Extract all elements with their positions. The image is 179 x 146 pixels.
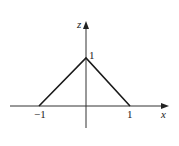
x-axis-label: x	[160, 108, 166, 120]
z-axis-arrow-icon	[83, 21, 89, 29]
tent-curve	[39, 58, 130, 106]
x-tick-neg-one: −1	[34, 108, 46, 120]
x-tick-pos-one: 1	[127, 108, 133, 120]
diagram-canvas: z x 1 −1 1	[0, 0, 179, 146]
tent-function-diagram: z x 1 −1 1	[0, 0, 179, 146]
z-tick-one: 1	[89, 49, 95, 61]
z-axis-label: z	[76, 18, 82, 30]
